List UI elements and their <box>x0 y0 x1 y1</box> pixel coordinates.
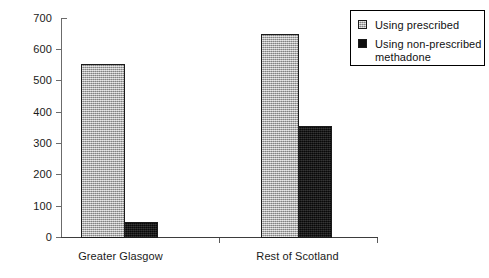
y-tick-mark-600 <box>56 49 62 50</box>
y-tick-label-500: 500 <box>2 75 52 86</box>
y-tick-label-600-wrap: 600 <box>0 44 52 55</box>
x-tick-mark-group-divider <box>219 238 220 243</box>
y-tick-mark-300 <box>56 143 62 144</box>
y-tick-mark-500 <box>56 80 62 81</box>
y-tick-label-300-wrap: 300 <box>0 138 52 149</box>
y-tick-label-200: 200 <box>2 169 52 180</box>
y-tick-label-0: 0 <box>2 232 52 243</box>
legend-item-prescribed: Using prescribed <box>358 19 459 32</box>
y-tick-label-500-wrap: 500 <box>0 75 52 86</box>
y-tick-mark-200 <box>56 174 62 175</box>
x-tick-mark-end <box>377 238 378 243</box>
y-tick-label-600: 600 <box>2 44 52 55</box>
y-tick-mark-400 <box>56 112 62 113</box>
legend-label-prescribed: Using prescribed <box>375 19 459 32</box>
legend-label-non-prescribed: Using non-prescribed methadone <box>375 38 482 63</box>
y-tick-label-0-wrap: 0 <box>0 232 52 243</box>
y-tick-label-100-wrap: 100 <box>0 201 52 212</box>
y-tick-label-700: 700 <box>2 13 52 24</box>
y-tick-label-400: 400 <box>2 107 52 118</box>
y-tick-label-100: 100 <box>2 201 52 212</box>
prescribed-swatch-icon <box>358 20 367 29</box>
legend: Using prescribed Using non-prescribed me… <box>350 10 485 66</box>
bar-rest-of-scotland-non-prescribed <box>298 126 332 238</box>
y-tick-label-700-wrap: 700 <box>0 13 52 24</box>
bar-rest-of-scotland-prescribed <box>261 34 299 238</box>
legend-item-non-prescribed: Using non-prescribed methadone <box>358 38 482 63</box>
x-axis-label-greater-glasgow: Greater Glasgow <box>63 250 178 262</box>
x-axis-label-rest-of-scotland: Rest of Scotland <box>240 250 355 262</box>
y-axis-line <box>61 18 62 238</box>
y-tick-label-200-wrap: 200 <box>0 169 52 180</box>
y-tick-mark-700 <box>61 18 67 19</box>
bar-greater-glasgow-prescribed <box>81 64 125 238</box>
nonprescribed-swatch-icon <box>358 39 367 48</box>
y-tick-mark-100 <box>56 206 62 207</box>
bar-chart: 700 600 500 400 300 200 100 0 Greater Gl… <box>0 0 489 278</box>
y-tick-label-400-wrap: 400 <box>0 107 52 118</box>
bar-greater-glasgow-non-prescribed <box>124 222 158 238</box>
y-tick-label-300: 300 <box>2 138 52 149</box>
